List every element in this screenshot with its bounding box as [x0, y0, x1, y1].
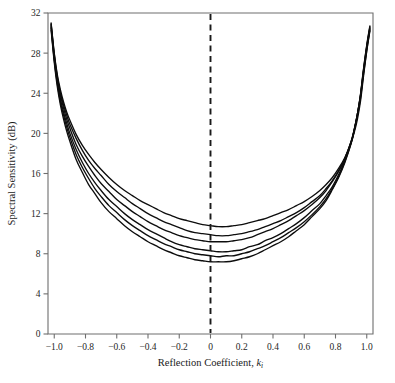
x-axis-title: Reflection Coefficient, ki: [158, 357, 263, 370]
y-tick-label: 4: [36, 289, 41, 299]
x-tick-label: 1.0: [361, 342, 373, 352]
y-axis: 048121620242832: [31, 8, 48, 339]
axis-titles: Reflection Coefficient, kiSpectral Sensi…: [6, 121, 263, 370]
chart-canvas: 048121620242832 −1.0−0.8−0.6−0.4−0.200.2…: [0, 0, 395, 383]
x-tick-label: 0.6: [298, 342, 310, 352]
x-tick-label: −0.4: [139, 342, 156, 352]
x-tick-label: −1.0: [46, 342, 63, 352]
x-tick-label: −0.6: [108, 342, 125, 352]
y-tick-label: 16: [31, 169, 41, 179]
x-tick-label: 0.4: [267, 342, 279, 352]
y-axis-title: Spectral Sensitivity (dB): [6, 121, 18, 225]
y-tick-label: 24: [31, 89, 41, 99]
y-tick-label: 32: [31, 8, 41, 18]
y-tick-label: 28: [31, 49, 41, 59]
x-tick-label: −0.8: [77, 342, 94, 352]
y-tick-label: 20: [31, 129, 41, 139]
x-tick-label: 0: [208, 342, 213, 352]
x-axis: −1.0−0.8−0.6−0.4−0.200.20.40.60.81.0: [46, 334, 373, 352]
x-tick-label: 0.2: [236, 342, 248, 352]
y-tick-label: 8: [36, 249, 41, 259]
spectral-sensitivity-chart: 048121620242832 −1.0−0.8−0.6−0.4−0.200.2…: [0, 0, 395, 383]
x-tick-label: 0.8: [330, 342, 342, 352]
x-tick-label: −0.2: [171, 342, 188, 352]
y-tick-label: 0: [36, 329, 41, 339]
y-tick-label: 12: [31, 209, 41, 219]
